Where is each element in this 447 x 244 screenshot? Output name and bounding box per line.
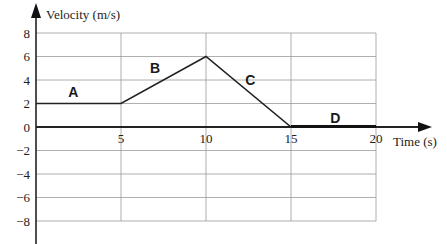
x-tick-label: 15 bbox=[285, 131, 298, 146]
y-tick-label: 4 bbox=[24, 73, 31, 88]
x-tick-label: 5 bbox=[118, 131, 125, 146]
y-tick-label: −2 bbox=[16, 143, 30, 158]
y-axis-label: Velocity (m/s) bbox=[46, 7, 120, 22]
y-tick-label: 8 bbox=[24, 26, 31, 41]
segment-labels: ABCD bbox=[68, 60, 340, 125]
y-tick-label: 6 bbox=[24, 49, 31, 64]
y-tick-label: −6 bbox=[16, 190, 30, 205]
segment-label: D bbox=[330, 110, 340, 126]
y-tick-label: 2 bbox=[24, 96, 31, 111]
velocity-time-chart: 86420−2−4−6−85101520 ABCD Velocity (m/s)… bbox=[0, 0, 447, 244]
y-tick-label: 0 bbox=[24, 120, 31, 135]
y-axis-arrow-icon bbox=[31, 3, 41, 18]
segment-label: A bbox=[68, 84, 78, 100]
axes bbox=[31, 3, 432, 244]
segment-label: B bbox=[150, 60, 160, 76]
x-tick-label: 20 bbox=[370, 131, 383, 146]
x-axis-label: Time (s) bbox=[393, 134, 437, 149]
x-tick-label: 10 bbox=[200, 131, 213, 146]
segment-label: C bbox=[245, 72, 255, 88]
y-tick-label: −8 bbox=[16, 214, 30, 229]
y-tick-label: −4 bbox=[16, 167, 30, 182]
x-axis-arrow-icon bbox=[418, 122, 432, 132]
